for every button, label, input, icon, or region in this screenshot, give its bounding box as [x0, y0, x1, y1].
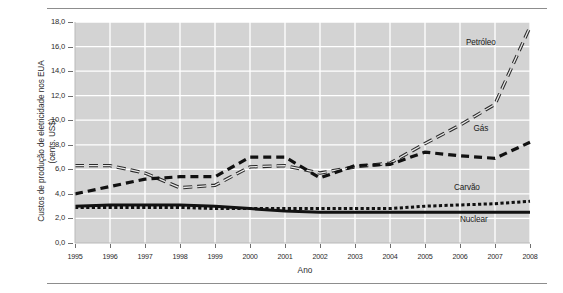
series-label-petrleo: Petróleo — [466, 38, 496, 47]
series-label-nuclear: Nuclear — [460, 215, 488, 224]
plot-background — [75, 22, 530, 243]
series-label-gs: Gás — [474, 124, 489, 133]
series-label-carvo: Carvão — [454, 183, 480, 192]
chart-figure: Custos de produção de eletricidade nos E… — [0, 0, 563, 293]
